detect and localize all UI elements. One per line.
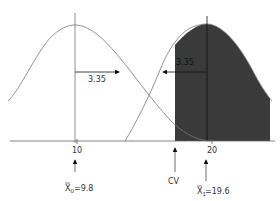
svg-text:=19.6: =19.6 [205, 187, 230, 196]
rejection-region-shading [130, 24, 272, 141]
tick-label-20: 20 [207, 146, 217, 155]
svg-text:=9.8: =9.8 [74, 184, 93, 193]
left-distance-label: 3.35 [88, 75, 106, 84]
power-diagram: 10 20 3.35 3.35 X 0 =9.8 CV X 1 =19.6 [0, 0, 280, 201]
right-distance-label: 3.35 [176, 58, 194, 67]
alt-mean-label: X 1 =19.6 [197, 186, 230, 197]
critical-value-label: CV [168, 177, 180, 186]
null-mean-label: X 0 =9.8 [65, 183, 93, 194]
tick-label-10: 10 [72, 146, 82, 155]
